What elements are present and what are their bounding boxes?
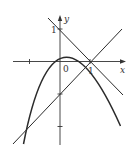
x-axis-arrow-icon: [120, 59, 126, 63]
x-tick-label-1: 1: [88, 66, 94, 76]
parabola: [24, 57, 121, 144]
y-tick-label-1: 1: [51, 25, 57, 35]
line-decreasing: [48, 18, 123, 95]
line-increasing: [13, 29, 122, 144]
y-axis-arrow-icon: [58, 15, 62, 21]
y-axis: [58, 15, 63, 145]
x-axis-label: x: [120, 65, 125, 75]
y-axis-label: y: [63, 14, 70, 24]
x-axis: [13, 59, 126, 64]
origin-label: 0: [63, 64, 69, 74]
function-graph-figure: y x 0 1 1: [0, 0, 133, 156]
